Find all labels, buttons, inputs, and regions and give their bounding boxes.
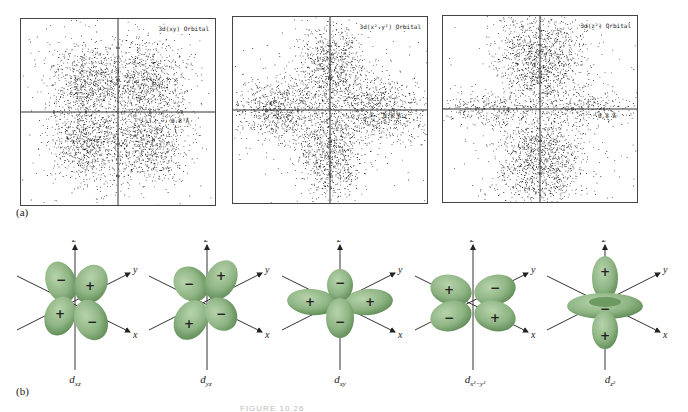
svg-text:x: x bbox=[662, 329, 668, 340]
figure-caption: FIGURE 10.26 bbox=[240, 404, 304, 412]
part-b-label: (b) bbox=[16, 385, 29, 397]
svg-text:z: z bbox=[601, 240, 606, 244]
svg-text:+: + bbox=[55, 307, 65, 321]
scale-label: 0.8 Å bbox=[171, 117, 189, 124]
svg-text:y: y bbox=[530, 264, 536, 275]
svg-text:+: + bbox=[444, 283, 454, 297]
svg-text:+: + bbox=[216, 269, 226, 283]
scatter-plot-dx2y2 bbox=[233, 17, 427, 203]
scale-label: 0.8 Å bbox=[598, 112, 616, 119]
svg-text:y: y bbox=[397, 264, 403, 275]
svg-text:−: − bbox=[87, 315, 97, 329]
scatter-panel-dx2y2: 3d(x²-y²) Orbital 0.8 Å bbox=[232, 16, 428, 204]
svg-text:−: − bbox=[444, 311, 454, 325]
svg-text:−: − bbox=[335, 276, 345, 290]
scatter-panel-dz2: 3d(z²) Orbital 0.8 Å bbox=[442, 15, 638, 203]
panel-title: 3d(z²) Orbital bbox=[580, 22, 631, 29]
svg-text:−: − bbox=[490, 281, 500, 295]
svg-text:z: z bbox=[469, 240, 474, 244]
svg-text:−: − bbox=[56, 273, 66, 287]
svg-text:+: + bbox=[85, 279, 95, 293]
svg-text:+: + bbox=[490, 311, 500, 325]
svg-text:+: + bbox=[305, 295, 315, 309]
svg-text:y: y bbox=[132, 264, 138, 275]
svg-text:−: − bbox=[335, 315, 345, 329]
svg-text:−: − bbox=[184, 277, 194, 291]
scale-label: 0.8 Å bbox=[383, 112, 401, 119]
svg-text:x: x bbox=[132, 329, 138, 340]
svg-text:+: + bbox=[184, 317, 194, 331]
orbital-label-dxy: dxy bbox=[300, 373, 380, 388]
orbital-label-dx2y2: dx²−y² bbox=[435, 373, 515, 388]
svg-text:−: − bbox=[216, 307, 226, 321]
orbital-x²−y²: zyx+−−+ bbox=[415, 240, 536, 370]
svg-text:z: z bbox=[336, 240, 341, 244]
svg-text:y: y bbox=[264, 264, 270, 275]
scatter-panel-dxy: 3d(xy) Orbital 0.8 Å bbox=[20, 18, 216, 206]
orbital-label-dxz: dxz bbox=[35, 373, 115, 388]
orbital-z²: zyx+−+ bbox=[547, 240, 668, 370]
scatter-plot-dxy bbox=[21, 19, 215, 205]
svg-text:+: + bbox=[600, 329, 610, 343]
svg-text:y: y bbox=[662, 264, 668, 275]
svg-text:x: x bbox=[397, 329, 403, 340]
orbital-yz: zyx−++− bbox=[149, 240, 270, 370]
orbital-label-dyz: dyz bbox=[166, 373, 246, 388]
orbital-xy: zyx++−− bbox=[282, 240, 403, 370]
scatter-plot-dz2 bbox=[443, 16, 637, 202]
svg-text:x: x bbox=[264, 329, 270, 340]
part-a-label: (a) bbox=[16, 206, 28, 218]
svg-text:+: + bbox=[600, 265, 610, 279]
svg-text:z: z bbox=[71, 240, 76, 244]
orbital-xz: zyx−++− bbox=[17, 240, 138, 370]
orbital-label-dz2: dz² bbox=[570, 373, 650, 388]
panel-title: 3d(x²-y²) Orbital bbox=[360, 23, 421, 30]
svg-text:+: + bbox=[365, 295, 375, 309]
svg-text:x: x bbox=[530, 329, 536, 340]
svg-text:−: − bbox=[600, 302, 610, 316]
svg-text:z: z bbox=[203, 240, 208, 244]
panel-title: 3d(xy) Orbital bbox=[158, 25, 209, 32]
